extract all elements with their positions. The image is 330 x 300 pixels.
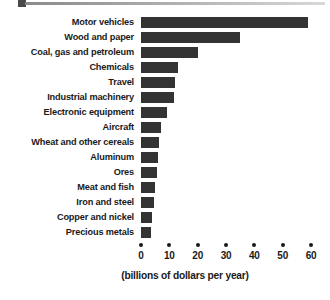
x-axis-caption: (billions of dollars per year)	[0, 270, 330, 281]
bar-track	[141, 92, 174, 103]
bar-track	[141, 227, 151, 238]
bar-row: Wood and paper	[0, 30, 330, 45]
x-axis-tick-dot	[167, 243, 171, 247]
bar	[141, 62, 178, 73]
bar-row: Meat and fish	[0, 180, 330, 195]
bar	[141, 122, 161, 133]
bar	[141, 197, 154, 208]
bar-track	[141, 107, 167, 118]
bar-row: Copper and nickel	[0, 210, 330, 225]
x-axis-tick-label: 0	[126, 250, 156, 261]
header-rule	[0, 0, 330, 10]
bar-row: Electronic equipment	[0, 105, 330, 120]
x-axis-tick-label: 20	[183, 250, 213, 261]
x-axis-tick-dot	[281, 243, 285, 247]
bar	[141, 32, 240, 43]
bar-category-label: Wood and paper	[0, 32, 134, 43]
x-axis-tick-label: 60	[296, 250, 326, 261]
bar-row: Iron and steel	[0, 195, 330, 210]
bar-category-label: Travel	[0, 77, 134, 88]
bar-track	[141, 137, 159, 148]
bar-chart: Motor vehiclesWood and paperCoal, gas an…	[0, 12, 330, 300]
bar	[141, 167, 157, 178]
bar	[141, 17, 308, 28]
bar-row: Wheat and other cereals	[0, 135, 330, 150]
x-axis-tick-dot	[139, 243, 143, 247]
bar-category-label: Copper and nickel	[0, 212, 134, 223]
bar-row: Aluminum	[0, 150, 330, 165]
bar	[141, 182, 155, 193]
bar	[141, 92, 174, 103]
bar-row: Industrial machinery	[0, 90, 330, 105]
bar	[141, 77, 175, 88]
bar-category-label: Chemicals	[0, 62, 134, 73]
bar-track	[141, 47, 198, 58]
bar-category-label: Precious metals	[0, 227, 134, 238]
bar	[141, 107, 167, 118]
bar-row: Travel	[0, 75, 330, 90]
bar-track	[141, 212, 152, 223]
bar-category-label: Iron and steel	[0, 197, 134, 208]
bar-category-label: Aircraft	[0, 122, 134, 133]
x-axis-tick-dot	[252, 243, 256, 247]
bar-row: Aircraft	[0, 120, 330, 135]
bar-category-label: Aluminum	[0, 152, 134, 163]
bar-track	[141, 182, 155, 193]
bar-category-label: Coal, gas and petroleum	[0, 47, 134, 58]
bar-track	[141, 17, 308, 28]
bar-row: Precious metals	[0, 225, 330, 240]
x-axis-tick-label: 50	[268, 250, 298, 261]
bar-track	[141, 122, 161, 133]
bar-category-label: Meat and fish	[0, 182, 134, 193]
bar-row: Chemicals	[0, 60, 330, 75]
bar	[141, 137, 159, 148]
x-axis-tick-label: 30	[211, 250, 241, 261]
bar-track	[141, 167, 157, 178]
x-axis-tick-label: 10	[154, 250, 184, 261]
bar	[141, 152, 158, 163]
x-axis-tick-dot	[309, 243, 313, 247]
bar-track	[141, 62, 178, 73]
bar-category-label: Industrial machinery	[0, 92, 134, 103]
bar-category-label: Ores	[0, 167, 134, 178]
bar-track	[141, 77, 175, 88]
bar-track	[141, 32, 240, 43]
bar-category-label: Wheat and other cereals	[0, 137, 134, 148]
bar	[141, 47, 198, 58]
bar-row: Coal, gas and petroleum	[0, 45, 330, 60]
x-axis-tick-dot	[224, 243, 228, 247]
chart-x-axis: (billions of dollars per year) 010203040…	[0, 240, 330, 300]
bar-row: Ores	[0, 165, 330, 180]
bar	[141, 212, 152, 223]
x-axis-tick-dot	[196, 243, 200, 247]
bar-row: Motor vehicles	[0, 15, 330, 30]
bar-track	[141, 197, 154, 208]
bar-category-label: Motor vehicles	[0, 17, 134, 28]
x-axis-tick-label: 40	[239, 250, 269, 261]
bar-track	[141, 152, 158, 163]
header-divider-line	[25, 2, 325, 5]
bar	[141, 227, 151, 238]
chart-plot-area: Motor vehiclesWood and paperCoal, gas an…	[0, 12, 330, 240]
bar-category-label: Electronic equipment	[0, 107, 134, 118]
